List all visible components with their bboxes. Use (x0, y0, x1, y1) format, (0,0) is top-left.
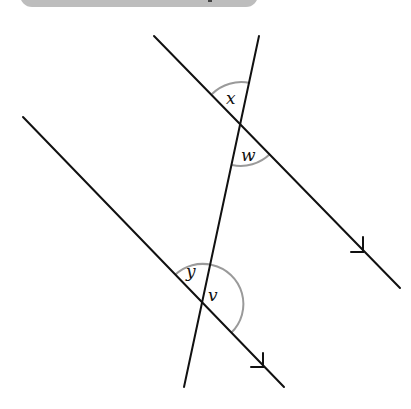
angle-label-y: y (185, 261, 196, 281)
angle-label-v: v (208, 285, 218, 305)
angle-label-x: x (226, 88, 236, 108)
angle-label-w: w (241, 145, 256, 165)
parallel-lines-diagram: x w y v (0, 0, 411, 409)
transversal-line (184, 36, 259, 387)
